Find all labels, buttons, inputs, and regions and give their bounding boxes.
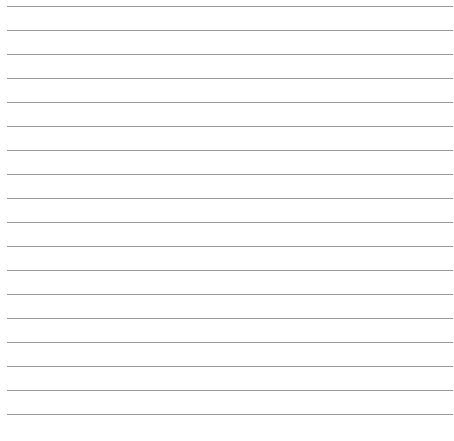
ruled-line: [7, 390, 453, 391]
ruled-line: [7, 342, 453, 343]
ruled-line: [7, 174, 453, 175]
ruled-line: [7, 198, 453, 199]
ruled-line: [7, 294, 453, 295]
ruled-line: [7, 102, 453, 103]
ruled-line: [7, 246, 453, 247]
ruled-line: [7, 414, 453, 415]
ruled-line: [7, 270, 453, 271]
ruled-line: [7, 6, 453, 7]
ruled-line: [7, 126, 453, 127]
ruled-line: [7, 366, 453, 367]
ruled-line: [7, 318, 453, 319]
ruled-line: [7, 78, 453, 79]
ruled-line: [7, 30, 453, 31]
ruled-line: [7, 54, 453, 55]
ruled-line: [7, 150, 453, 151]
ruled-line: [7, 222, 453, 223]
